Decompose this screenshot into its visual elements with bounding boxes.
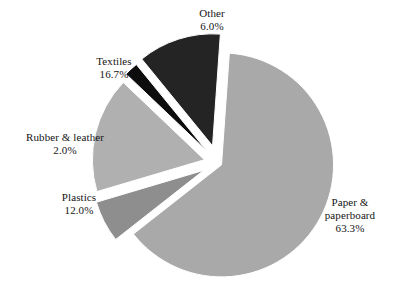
slice-label-name: Paper & — [296, 196, 404, 209]
slice-label-name: Other — [160, 7, 264, 20]
pie-chart: Paper & paperboard 63.3% Other 6.0% Text… — [0, 0, 409, 283]
slice-label-value: 63.3% — [296, 222, 404, 235]
slice-label-textiles: Textiles 16.7% — [60, 55, 168, 81]
slice-label-value: 6.0% — [160, 20, 264, 33]
slice-label-other: Other 6.0% — [160, 7, 264, 33]
slice-label-name-2: paperboard — [296, 209, 404, 222]
slice-label-name: Plastics — [26, 191, 132, 204]
slice-label-value: 2.0% — [2, 144, 128, 157]
slice-label-name: Rubber & leather — [2, 131, 128, 144]
slice-label-value: 12.0% — [26, 204, 132, 217]
slice-label-name: Textiles — [60, 55, 168, 68]
slice-label-paper-paperboard: Paper & paperboard 63.3% — [296, 196, 404, 235]
slice-label-value: 16.7% — [60, 68, 168, 81]
slice-label-rubber-leather: Rubber & leather 2.0% — [2, 131, 128, 157]
slice-label-plastics: Plastics 12.0% — [26, 191, 132, 217]
